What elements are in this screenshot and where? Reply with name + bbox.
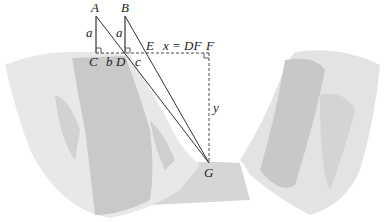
right-angle-D xyxy=(125,48,130,53)
label-a-left: a xyxy=(86,25,93,40)
right-angle-F xyxy=(204,53,209,58)
label-F: F xyxy=(205,38,215,53)
label-D: D xyxy=(115,54,126,69)
label-E: E xyxy=(145,38,154,53)
label-c: c xyxy=(135,54,141,69)
right-angle-C xyxy=(96,48,101,53)
canyon-diagram: A B C D E F G a a b c x = DF y xyxy=(0,0,391,222)
label-x-eq-DF: x = DF xyxy=(162,38,202,53)
label-G: G xyxy=(204,165,214,180)
label-C: C xyxy=(89,54,98,69)
label-y: y xyxy=(211,100,219,115)
label-B: B xyxy=(121,0,129,15)
label-b: b xyxy=(106,54,113,69)
label-A: A xyxy=(90,0,99,15)
right-cliff xyxy=(240,50,380,215)
left-cliff xyxy=(5,52,200,218)
label-a-right: a xyxy=(116,25,123,40)
